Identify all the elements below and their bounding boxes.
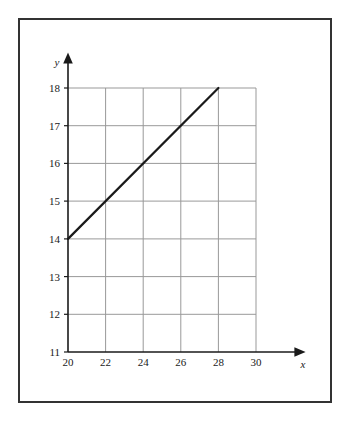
y-tick-label-16: 16 xyxy=(49,157,61,169)
y-tick-label-17: 17 xyxy=(49,120,61,132)
line-chart: 18 17 16 15 14 13 12 11 20 22 24 26 28 3… xyxy=(0,0,356,433)
x-tick-label-24: 24 xyxy=(138,356,150,368)
y-tick-label-11: 11 xyxy=(49,346,60,358)
x-tick-label-20: 20 xyxy=(63,356,75,368)
vertical-gridlines xyxy=(106,88,256,352)
x-tick-label-26: 26 xyxy=(175,356,187,368)
y-axis-label: y xyxy=(54,56,60,68)
x-tick-label-30: 30 xyxy=(251,356,263,368)
y-tick-label-12: 12 xyxy=(49,308,60,320)
figure-root: 18 17 16 15 14 13 12 11 20 22 24 26 28 3… xyxy=(0,0,356,433)
y-tick-label-14: 14 xyxy=(49,233,61,245)
x-tick-label-22: 22 xyxy=(100,356,111,368)
y-tick-label-18: 18 xyxy=(49,82,61,94)
y-tick-label-13: 13 xyxy=(49,271,61,283)
horizontal-gridlines xyxy=(68,88,256,314)
x-tick-label-28: 28 xyxy=(213,356,225,368)
x-axis-label: x xyxy=(300,358,306,370)
y-tick-label-15: 15 xyxy=(49,195,61,207)
